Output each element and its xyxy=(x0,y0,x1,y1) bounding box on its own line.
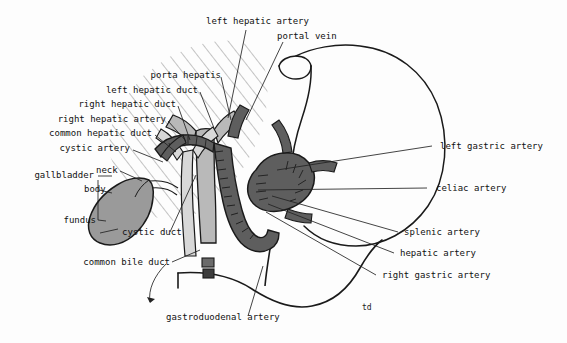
leader-right-gastric-artery xyxy=(266,212,376,275)
label-hepatic-artery: hepatic artery xyxy=(400,248,476,258)
label-fundus: fundus xyxy=(56,215,96,225)
label-common-hepatic-duct: common hepatic duct xyxy=(32,128,152,138)
label-gallbladder: gallbladder xyxy=(24,170,94,180)
anatomy-figure: left hepatic artery portal vein porta he… xyxy=(0,0,567,343)
leader-gastroduodenal-artery xyxy=(248,266,263,316)
label-celiac-artery: celiac artery xyxy=(436,183,506,193)
leader-cbd-arrow xyxy=(147,297,155,303)
leader-hepatic-artery xyxy=(268,204,394,253)
label-common-bile-duct: common bile duct xyxy=(62,257,170,267)
label-left-hepatic-artery: left hepatic artery xyxy=(206,16,309,26)
label-gastroduodenal-artery: gastroduodenal artery xyxy=(166,312,280,322)
label-neck: neck xyxy=(96,165,118,175)
artist-signature: td xyxy=(362,303,372,312)
label-cystic-duct: cystic duct xyxy=(122,227,182,237)
label-left-gastric-artery: left gastric artery xyxy=(440,141,543,151)
label-left-hepatic-duct: left hepatic duct xyxy=(102,85,198,95)
label-body: body xyxy=(84,184,106,194)
label-splenic-artery: splenic artery xyxy=(404,227,480,237)
label-right-hepatic-artery: right hepatic artery xyxy=(48,114,166,124)
label-right-hepatic-duct: right hepatic duct xyxy=(70,99,176,109)
label-right-gastric-artery: right gastric artery xyxy=(382,270,490,280)
leader-cbd-curve xyxy=(150,264,166,302)
label-portal-vein: portal vein xyxy=(277,31,337,41)
label-porta-hepatis: porta hepatis xyxy=(145,70,221,80)
label-cystic-artery: cystic artery xyxy=(50,143,130,153)
